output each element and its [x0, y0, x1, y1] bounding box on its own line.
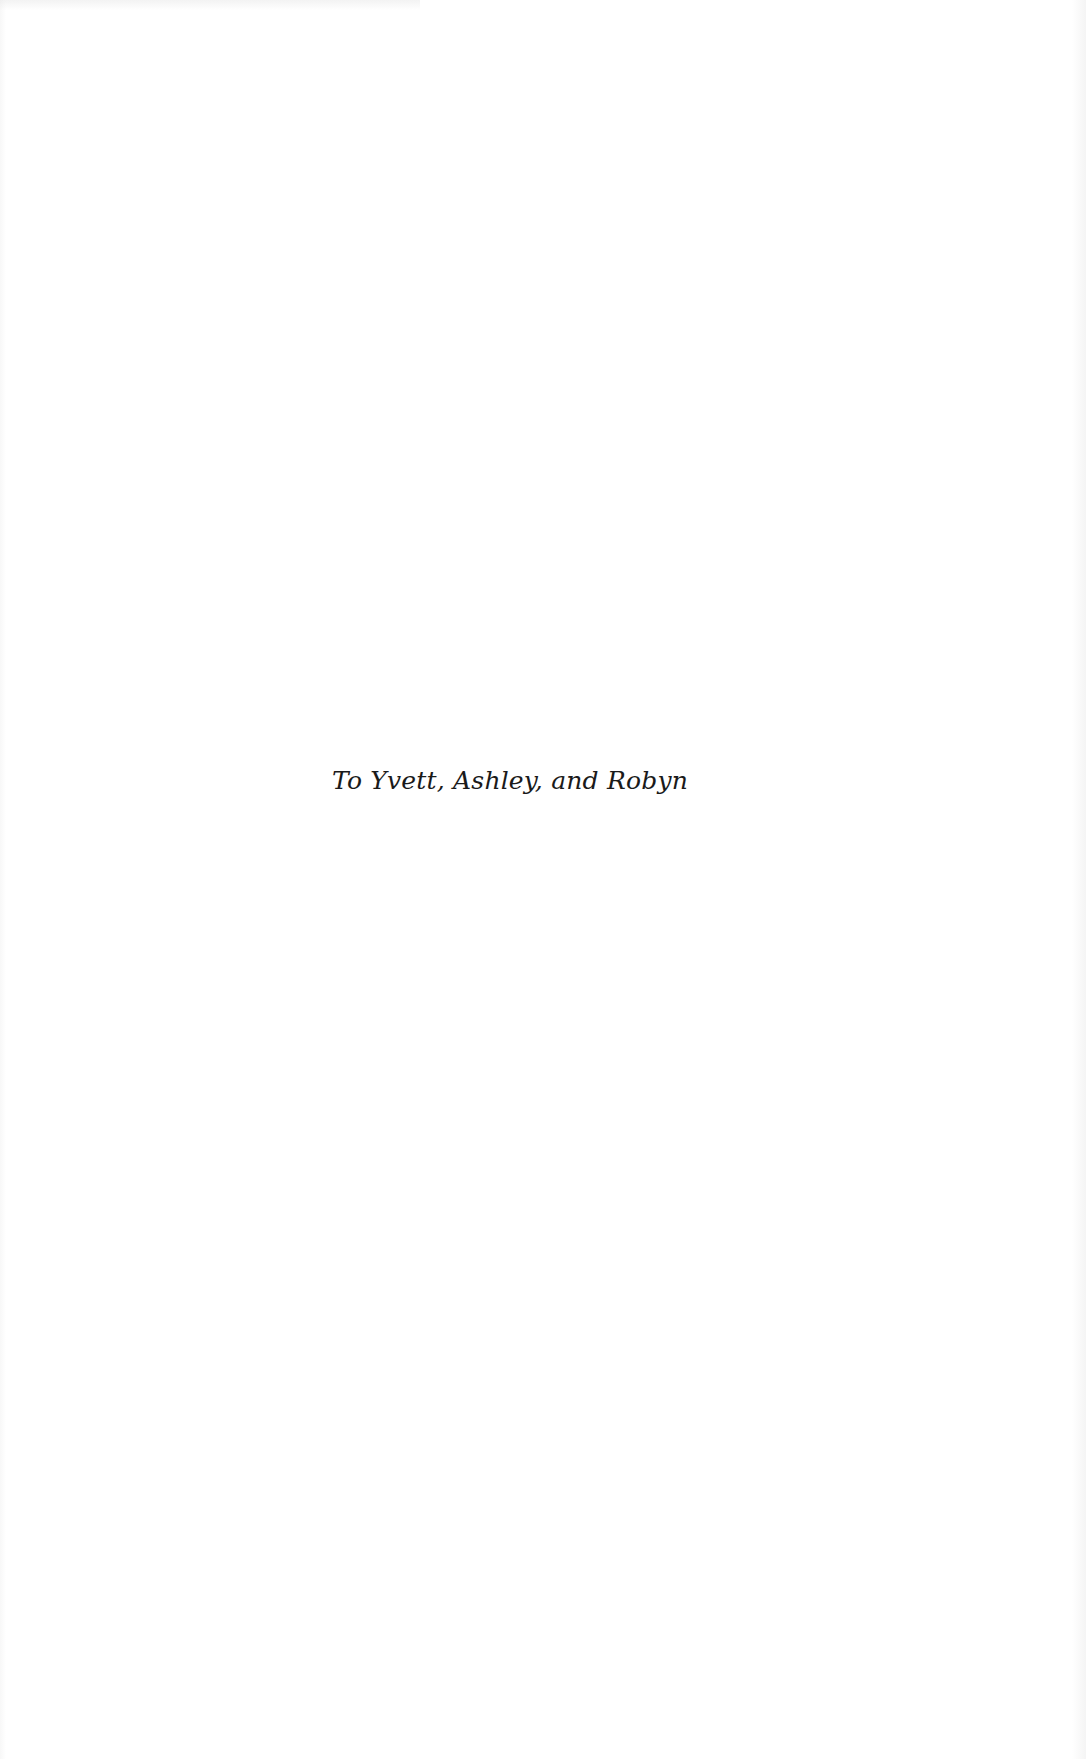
- dedication-text: To Yvett, Ashley, and Robyn: [0, 764, 1020, 798]
- scan-artifact-right: [1072, 0, 1086, 1759]
- scan-artifact-top: [0, 0, 420, 10]
- scan-artifact-left: [0, 0, 6, 1759]
- book-page: To Yvett, Ashley, and Robyn: [0, 0, 1086, 1759]
